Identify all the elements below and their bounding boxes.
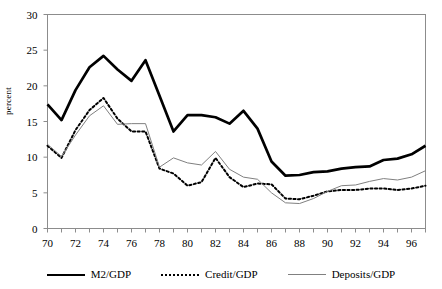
series-line-m2-gdp [48, 56, 426, 176]
legend-item-m2-gdp: M2/GDP [47, 268, 131, 280]
plot-area [0, 0, 442, 289]
chart-container: percent 302520151050 7072747678808284868… [0, 0, 442, 289]
chart-legend: M2/GDP Credit/GDP Deposits/GDP [0, 264, 442, 284]
legend-label: M2/GDP [91, 268, 131, 280]
legend-label: Deposits/GDP [332, 268, 396, 280]
series-line-credit-gdp [48, 98, 426, 199]
legend-label: Credit/GDP [205, 268, 258, 280]
legend-item-deposits-gdp: Deposits/GDP [288, 268, 396, 280]
legend-swatch-solid-thin-icon [288, 269, 326, 279]
legend-swatch-dotted-icon [161, 269, 199, 279]
legend-item-credit-gdp: Credit/GDP [161, 268, 258, 280]
plot-frame [48, 15, 426, 229]
legend-swatch-solid-thick-icon [47, 269, 85, 279]
